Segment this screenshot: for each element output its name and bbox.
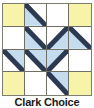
quilt-cell-r1-c3 (69, 27, 91, 50)
block-caption: Clark Choice (0, 97, 94, 108)
quilt-cell-r2-c1 (25, 50, 47, 73)
quilt-cell-r3-c2 (47, 72, 69, 95)
quilt-cell-r3-c3 (69, 72, 91, 95)
quilt-cell-r1-c2 (47, 27, 69, 50)
quilt-triangle-triangle-top-right (47, 72, 68, 95)
quilt-cell-r2-c2 (47, 50, 69, 73)
quilt-cell-r3-c1 (25, 72, 47, 95)
quilt-triangle-triangle-bottom-left (69, 27, 91, 49)
quilt-triangle-triangle-bottom-left (25, 27, 46, 49)
quilt-block (2, 3, 92, 96)
quilt-cell-r0-c3 (69, 4, 91, 27)
quilt-cell-r3-c0 (3, 72, 25, 95)
quilt-triangle-triangle-top-right (3, 50, 24, 72)
block-caption-label: Clark Choice (0, 97, 94, 108)
quilt-grid (3, 4, 91, 95)
quilt-triangle-triangle-top-right (25, 50, 46, 72)
quilt-cell-r2-c0 (3, 50, 25, 73)
quilt-cell-r2-c3 (69, 50, 91, 73)
quilt-block-figure: Clark Choice (0, 0, 94, 108)
quilt-cell-r0-c1 (25, 4, 47, 27)
quilt-triangle-triangle-bottom-left (25, 4, 46, 26)
quilt-triangle-triangle-top-left (47, 50, 68, 72)
quilt-cell-r0-c0 (3, 4, 25, 27)
quilt-cell-r0-c2 (47, 4, 69, 27)
quilt-cell-r1-c0 (3, 27, 25, 50)
quilt-triangle-triangle-bottom-right (47, 27, 68, 49)
quilt-cell-r1-c1 (25, 27, 47, 50)
